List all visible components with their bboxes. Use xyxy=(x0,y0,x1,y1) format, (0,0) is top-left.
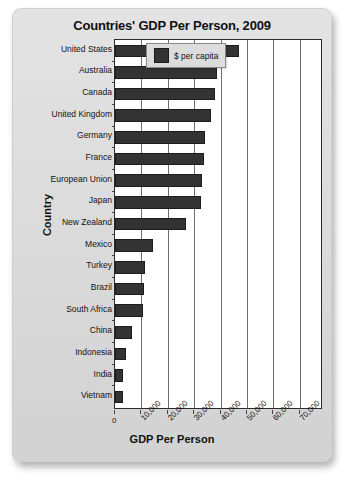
bar xyxy=(115,88,215,101)
bar xyxy=(115,261,145,274)
y-axis-label: European Union xyxy=(20,174,112,184)
bar xyxy=(115,239,153,252)
chart-title: Countries' GDP Per Person, 2009 xyxy=(13,18,331,33)
y-axis-label: Indonesia xyxy=(20,347,112,357)
x-axis-title: GDP Per Person xyxy=(13,433,331,445)
y-axis-label: Canada xyxy=(20,87,112,97)
x-axis-label: 0 xyxy=(112,416,116,425)
bar xyxy=(115,131,205,144)
legend-swatch-icon xyxy=(154,48,169,63)
bar xyxy=(115,218,186,231)
bar xyxy=(115,326,132,339)
y-axis-labels: United StatesAustraliaCanadaUnited Kingd… xyxy=(16,39,112,409)
y-axis-label: United Kingdom xyxy=(20,109,112,119)
y-axis-label: Mexico xyxy=(20,239,112,249)
bar xyxy=(115,174,202,187)
y-axis-label: Germany xyxy=(20,130,112,140)
y-axis-label: Vietnam xyxy=(20,390,112,400)
bar xyxy=(115,153,204,166)
bar xyxy=(115,66,217,79)
bar xyxy=(115,283,144,296)
y-axis-label: Brazil xyxy=(20,282,112,292)
bar xyxy=(115,196,201,209)
bar xyxy=(115,369,123,382)
gridline xyxy=(300,40,301,408)
bar xyxy=(115,109,211,122)
bar xyxy=(115,391,123,404)
plot-area xyxy=(114,39,322,409)
chart-card: Countries' GDP Per Person, 2009 Country … xyxy=(12,8,332,462)
y-axis-label: France xyxy=(20,152,112,162)
bar xyxy=(115,304,143,317)
x-axis-tick xyxy=(114,410,115,414)
gridline xyxy=(247,40,248,408)
gridline xyxy=(221,40,222,408)
y-axis-label: India xyxy=(20,369,112,379)
y-axis-label: United States xyxy=(20,44,112,54)
y-axis-label: South Africa xyxy=(20,304,112,314)
y-axis-label: China xyxy=(20,325,112,335)
y-axis-label: Japan xyxy=(20,195,112,205)
bar xyxy=(115,348,126,361)
y-axis-label: Turkey xyxy=(20,260,112,270)
legend-label: $ per capita xyxy=(174,51,218,61)
y-axis-label: Australia xyxy=(20,65,112,75)
y-axis-label: New Zealand xyxy=(20,217,112,227)
gridline xyxy=(273,40,274,408)
chart-legend: $ per capita xyxy=(146,43,226,68)
